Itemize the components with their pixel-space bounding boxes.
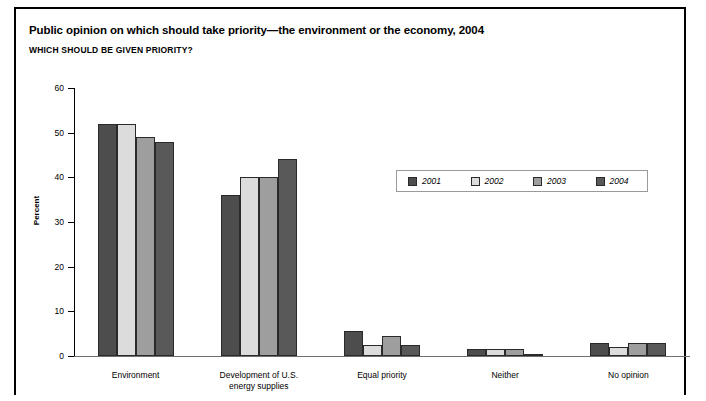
y-axis-tick-label: 50 [55,129,64,138]
bar [240,177,259,356]
bar [136,137,155,356]
plot-area: Percent 0102030405060 EnvironmentDevelop… [74,88,690,356]
bar-group [74,88,197,356]
legend-swatch-icon [533,177,542,186]
bar-groups [74,88,690,356]
y-axis-tick-label: 60 [55,84,64,93]
bar [609,347,628,356]
chart-page: Public opinion on which should take prio… [0,0,706,401]
x-axis-category-label: No opinion [567,370,690,381]
bar [486,349,505,356]
page-title: Public opinion on which should take prio… [29,24,484,36]
bar [155,142,174,356]
x-axis-category-label: Equal priority [320,370,443,381]
y-axis-title: Percent [32,196,41,225]
bar [117,124,136,356]
y-axis-tick [68,356,74,357]
bar [382,336,401,356]
legend-swatch-icon [471,177,480,186]
chart-legend: 2001200220032004 [396,170,648,192]
bar-group [197,88,320,356]
bar [221,195,240,356]
legend-item[interactable]: 2004 [585,176,648,186]
y-axis-tick-label: 20 [55,263,64,272]
bar [344,331,363,356]
bar-group [567,88,690,356]
x-axis-line [74,356,690,357]
bar [401,345,420,356]
x-axis-category-label: Neither [444,370,567,381]
bar [505,349,524,356]
bar [590,343,609,356]
bar [467,349,486,356]
page-subtitle: WHICH SHOULD BE GIVEN PRIORITY? [29,45,193,55]
legend-label: 2004 [610,176,629,186]
x-axis-category-label: Environment [74,370,197,381]
legend-item[interactable]: 2003 [522,176,585,186]
legend-swatch-icon [408,177,417,186]
y-axis-tick-label: 40 [55,173,64,182]
legend-item[interactable]: 2002 [460,176,523,186]
y-axis-tick-label: 10 [55,307,64,316]
legend-label: 2002 [485,176,504,186]
bar [259,177,278,356]
bar [278,159,297,356]
bar-group [444,88,567,356]
bar [363,345,382,356]
legend-label: 2001 [422,176,441,186]
y-axis-tick-label: 0 [59,352,64,361]
legend-label: 2003 [547,176,566,186]
legend-item[interactable]: 2001 [397,176,460,186]
bar [98,124,117,356]
bar [647,343,666,356]
y-axis-tick-label: 30 [55,218,64,227]
bar [524,354,543,356]
legend-swatch-icon [596,177,605,186]
x-axis-category-label: Development of U.S. energy supplies [197,370,320,392]
bar [628,343,647,356]
bar-group [320,88,443,356]
